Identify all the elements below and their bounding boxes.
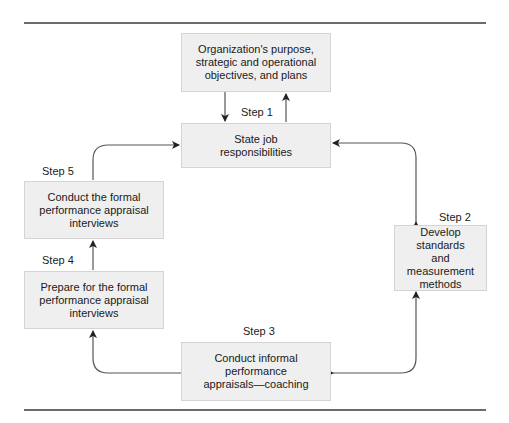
box-organization-purpose-text: Organization's purpose, strategic and op… (196, 43, 316, 82)
step2-label: Step 2 (439, 211, 471, 224)
box-step4-prepare-formal-interviews: Prepare for the formal performance appra… (24, 271, 164, 329)
step1-label: Step 1 (241, 106, 273, 119)
arrow-step3-step2 (333, 292, 416, 373)
arrow-step3-to-step4 (93, 331, 181, 373)
box-organization-purpose: Organization's purpose, strategic and op… (181, 33, 331, 92)
box-step3-text: Conduct informal performance appraisals—… (185, 352, 327, 391)
bottom-rule (24, 409, 486, 411)
box-step5-conduct-formal-interviews: Conduct the formal performance appraisal… (24, 181, 164, 239)
box-step2-develop-standards: Develop standards and measurement method… (394, 225, 487, 291)
top-rule (24, 22, 486, 24)
step5-label: Step 5 (42, 165, 74, 178)
step3-label: Step 3 (243, 325, 275, 338)
box-step2-text: Develop standards and measurement method… (398, 226, 483, 291)
arrow-step2-step1 (333, 143, 416, 222)
box-step5-text: Conduct the formal performance appraisal… (39, 191, 148, 230)
box-step3-informal-appraisals: Conduct informal performance appraisals—… (181, 342, 331, 401)
box-step4-text: Prepare for the formal performance appra… (39, 281, 148, 320)
arrow-step5-to-step1 (93, 145, 179, 180)
box-step1-state-job-responsibilities: State job responsibilities (181, 123, 331, 168)
step4-label: Step 4 (42, 254, 74, 267)
box-step1-text: State job responsibilities (220, 133, 292, 159)
